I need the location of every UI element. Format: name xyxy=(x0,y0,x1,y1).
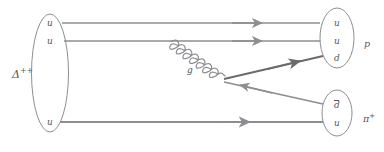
gluon-spiral xyxy=(170,40,226,77)
pion-label: π+ xyxy=(363,113,375,124)
proton-quark-d: d xyxy=(334,54,340,63)
proton-symbol: p xyxy=(364,38,370,49)
d-quark-line-arrow xyxy=(268,61,300,69)
pion-charge-superscript: + xyxy=(369,112,375,120)
delta-ellipse xyxy=(32,14,69,132)
proton-quark-u-2: u xyxy=(334,37,340,46)
delta-particle-label: Δ++ xyxy=(12,67,33,80)
pion-quark-u: u xyxy=(334,119,340,128)
dbar-antiquark-line xyxy=(224,82,323,104)
gluon-label: g xyxy=(187,66,193,75)
feynman-quark-flow-diagram: Δ++ u u u g u u d p d u π+ xyxy=(0,0,384,152)
dbar-overline-symbol: d xyxy=(334,101,340,110)
delta-quark-u-3: u xyxy=(47,118,53,127)
delta-quark-u-1: u xyxy=(47,19,53,28)
diagram-canvas xyxy=(0,0,384,152)
delta-charge-superscript: ++ xyxy=(20,66,33,75)
pion-antiquark-dbar: d xyxy=(334,101,340,110)
pion-ellipse xyxy=(322,90,352,136)
dbar-antiquark-line-arrow xyxy=(240,85,272,93)
proton-label: p xyxy=(364,38,370,49)
delta-quark-u-2: u xyxy=(47,37,53,46)
delta-symbol: Δ xyxy=(12,68,20,81)
proton-quark-u-1: u xyxy=(334,19,340,28)
